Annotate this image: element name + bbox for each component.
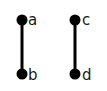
node-c xyxy=(70,15,81,26)
graph-diagram: a b c d xyxy=(0,0,107,91)
node-label-d: d xyxy=(82,66,92,84)
node-b xyxy=(17,69,28,80)
node-label-a: a xyxy=(28,11,37,29)
node-label-b: b xyxy=(28,66,38,84)
node-d xyxy=(70,69,81,80)
node-label-c: c xyxy=(82,11,90,29)
node-a xyxy=(17,15,28,26)
